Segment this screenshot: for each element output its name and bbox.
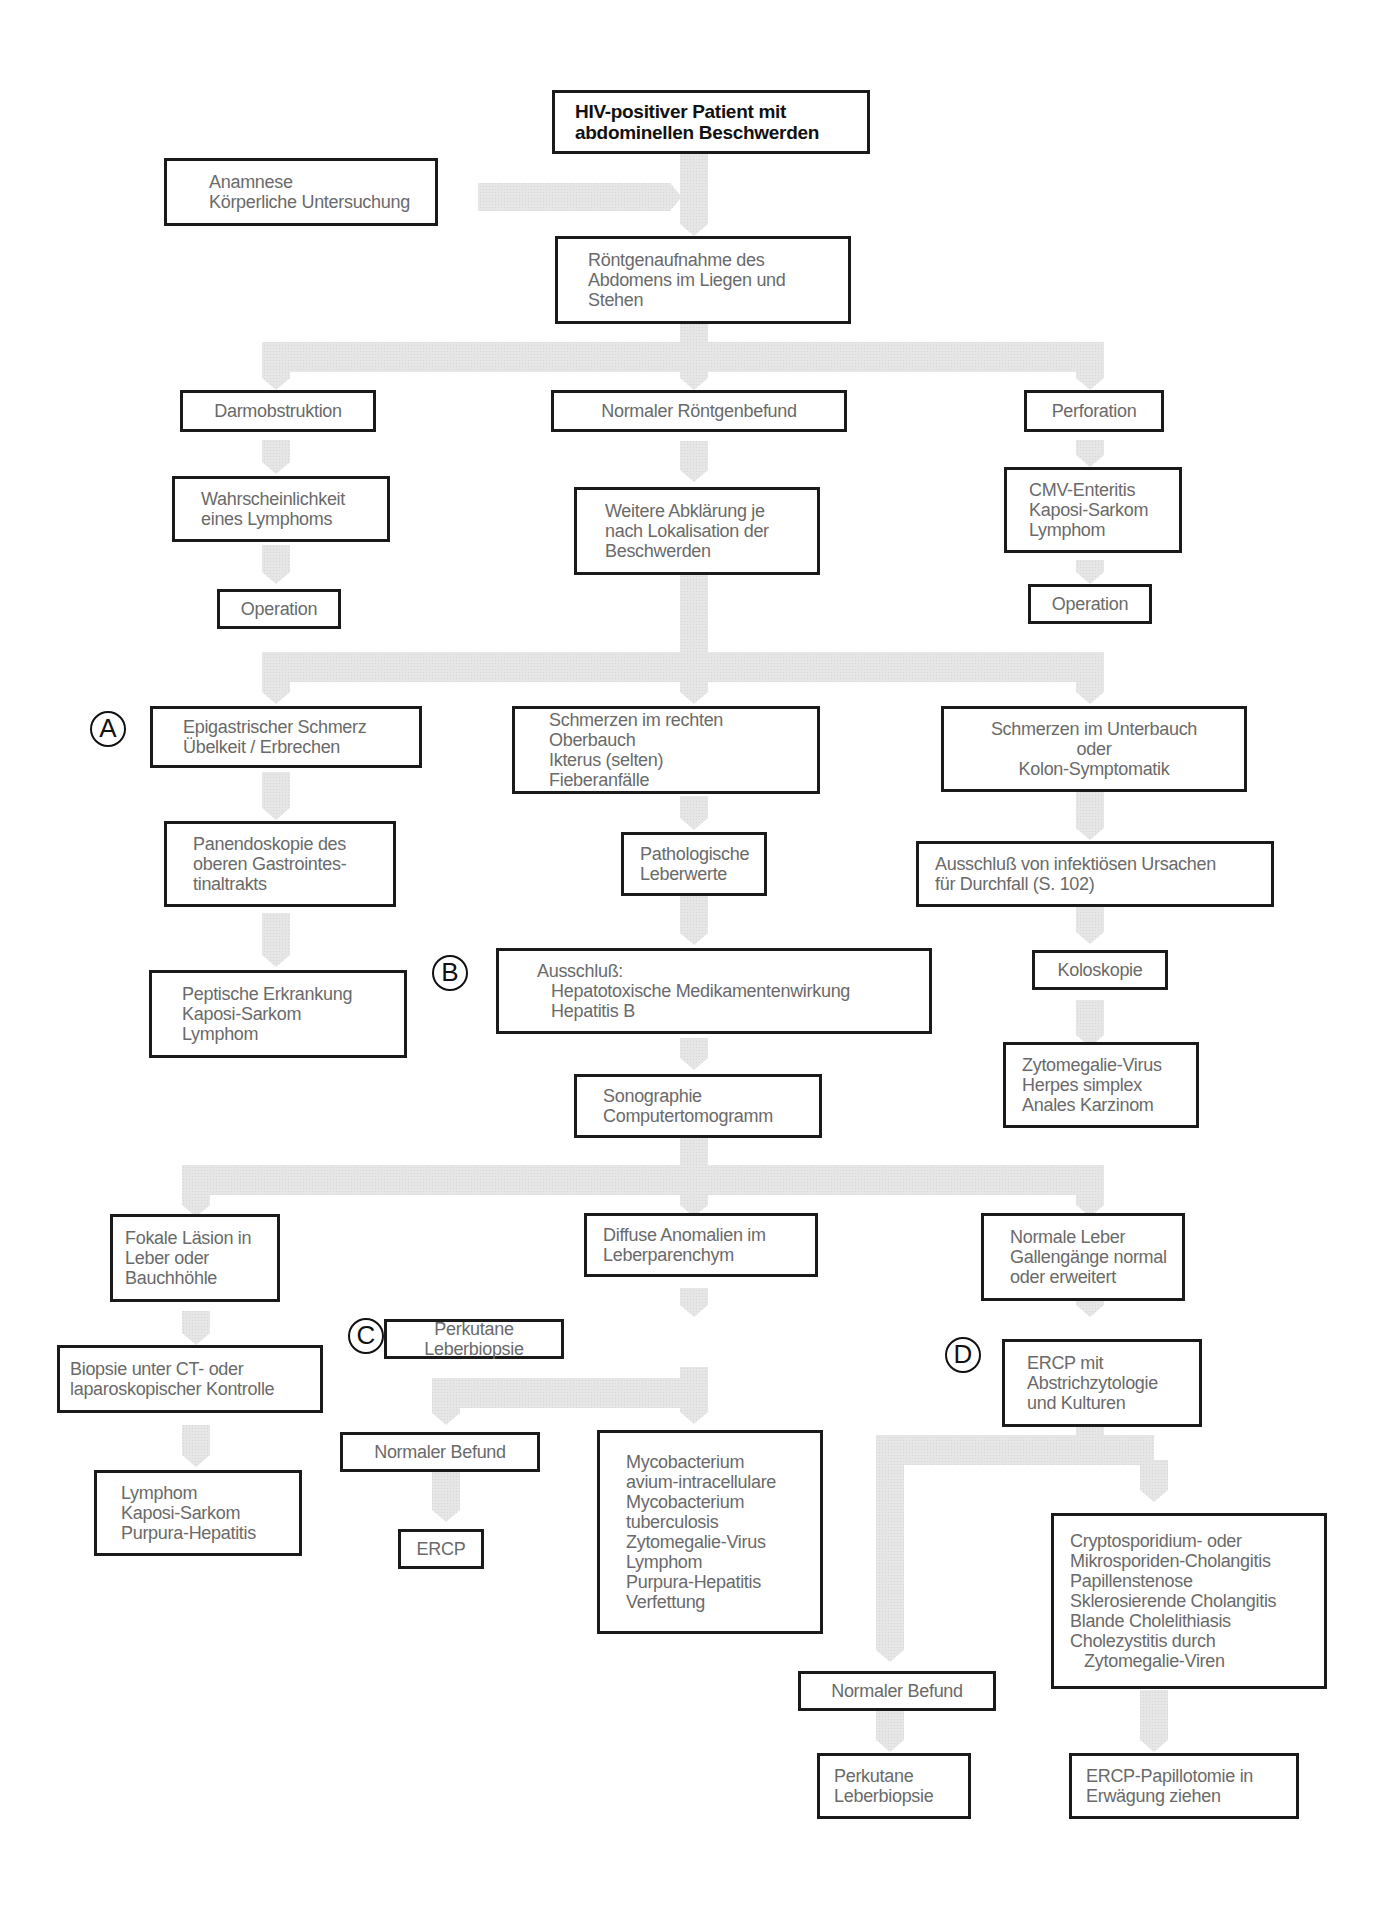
node-biopsie-ct: Biopsie unter CT- oder laparoskopischer … <box>57 1345 323 1413</box>
node-text: Leber oder <box>125 1248 265 1268</box>
title-line: abdominellen Beschwerden <box>575 122 855 143</box>
node-text: Anamnese <box>209 172 423 192</box>
node-diffuse-anomalien: Diffuse Anomalien im Leberparenchym <box>584 1213 818 1277</box>
node-normaler-roentgenbefund: Normaler Röntgenbefund <box>551 390 847 432</box>
node-text: Hepatotoxische Medikamentenwirkung <box>537 981 917 1001</box>
node-text: Zytomegalie-Virus <box>1022 1055 1184 1075</box>
node-text: oder erweitert <box>1010 1267 1170 1287</box>
node-text: Computertomogramm <box>603 1106 807 1126</box>
node-text: Ausschluß von infektiösen Ursachen <box>935 854 1259 874</box>
node-text: Sonographie <box>603 1086 807 1106</box>
node-text: Pathologische <box>640 844 752 864</box>
node-normaler-befund-d: Normaler Befund <box>798 1671 996 1711</box>
node-lymphom-fokal: Lymphom Kaposi-Sarkom Purpura-Hepatitis <box>94 1470 302 1556</box>
node-roentgen: Röntgenaufnahme des Abdomens im Liegen u… <box>555 236 851 324</box>
node-text: Erwägung ziehen <box>1086 1786 1284 1806</box>
node-text: oder <box>1077 739 1112 759</box>
node-text: Kaposi-Sarkom <box>121 1503 287 1523</box>
node-text: Kolon-Symptomatik <box>1019 759 1170 779</box>
node-text: Cholezystitis durch <box>1070 1631 1312 1651</box>
node-koloskopie: Koloskopie <box>1032 950 1168 990</box>
node-text: Perkutane <box>834 1766 956 1786</box>
node-text: Operation <box>241 599 317 619</box>
node-operation-right: Operation <box>1028 584 1152 624</box>
node-text: Koloskopie <box>1057 960 1142 980</box>
node-text: ERCP <box>417 1539 466 1559</box>
node-text: Panendoskopie des <box>193 834 381 854</box>
node-normale-leber: Normale Leber Gallengänge normal oder er… <box>981 1213 1185 1301</box>
node-text: Verfettung <box>626 1592 808 1612</box>
title-line: HIV-positiver Patient mit <box>575 101 855 122</box>
node-perforation: Perforation <box>1024 390 1164 432</box>
node-text: ERCP mit <box>1027 1353 1187 1373</box>
node-text: Leberbiopsie <box>834 1786 956 1806</box>
node-text: nach Lokalisation der <box>605 521 805 541</box>
node-text: Perforation <box>1052 401 1137 421</box>
node-text: Fieberanfälle <box>549 770 805 790</box>
node-text: Diffuse Anomalien im <box>603 1225 803 1245</box>
node-text: ERCP-Papillotomie in <box>1086 1766 1284 1786</box>
node-lymphom-wahrscheinlichkeit: Wahrscheinlichkeit eines Lymphoms <box>172 476 390 542</box>
node-text: Körperliche Untersuchung <box>209 192 423 212</box>
node-perkutane-biopsie-d: Perkutane Leberbiopsie <box>817 1753 971 1819</box>
node-operation-left: Operation <box>217 589 341 629</box>
node-text: CMV-Enteritis <box>1029 480 1167 500</box>
node-text: Lymphom <box>182 1024 392 1044</box>
node-text: Zytomegalie-Virus <box>626 1532 808 1552</box>
node-text: Perkutane Leberbiopsie <box>399 1319 549 1359</box>
node-text: Röntgenaufnahme des <box>588 250 836 270</box>
node-text: Abdomens im Liegen und <box>588 270 836 290</box>
node-text: Beschwerden <box>605 541 805 561</box>
node-text: Lymphom <box>1029 520 1167 540</box>
node-text: für Durchfall (S. 102) <box>935 874 1259 894</box>
marker-d: D <box>945 1337 981 1373</box>
node-text: Ausschluß: <box>537 961 917 981</box>
node-text: Anales Karzinom <box>1022 1095 1184 1115</box>
node-text: Papillenstenose <box>1070 1571 1312 1591</box>
node-text: Normaler Befund <box>374 1442 506 1462</box>
node-sonographie: Sonographie Computertomogramm <box>574 1074 822 1138</box>
node-panendoskopie: Panendoskopie des oberen Gastrointes- ti… <box>164 821 396 907</box>
marker-a: A <box>90 711 126 747</box>
node-text: avium-intracellulare <box>626 1472 808 1492</box>
node-ercp-abstrich: ERCP mit Abstrichzytologie und Kulturen <box>1002 1339 1202 1427</box>
node-text: Biopsie unter CT- oder <box>70 1359 308 1379</box>
node-text: Bauchhöhle <box>125 1268 265 1288</box>
node-pathologische-leberwerte: Pathologische Leberwerte <box>621 832 767 896</box>
marker-c: C <box>348 1318 384 1354</box>
arrow-roentgen-down <box>680 322 708 345</box>
node-text: Mycobacterium <box>626 1492 808 1512</box>
node-text: Operation <box>1052 594 1128 614</box>
node-text: Weitere Abklärung je <box>605 501 805 521</box>
node-epigastrisch: Epigastrischer Schmerz Übelkeit / Erbrec… <box>150 706 422 768</box>
node-text: Mikrosporiden-Cholangitis <box>1070 1551 1312 1571</box>
node-text: Kaposi-Sarkom <box>1029 500 1167 520</box>
node-text: Darmobstruktion <box>214 401 342 421</box>
node-unterbauch: Schmerzen im Unterbauch oder Kolon-Sympt… <box>941 706 1247 792</box>
node-text: Cryptosporidium- oder <box>1070 1531 1312 1551</box>
node-text: Fokale Läsion in <box>125 1228 265 1248</box>
node-mycobacterium: Mycobacterium avium-intracellulare Mycob… <box>597 1430 823 1634</box>
node-text: Leberwerte <box>640 864 752 884</box>
node-text: Gallengänge normal <box>1010 1247 1170 1267</box>
node-text: Herpes simplex <box>1022 1075 1184 1095</box>
node-rechter-oberbauch: Schmerzen im rechten Oberbauch Ikterus (… <box>512 706 820 794</box>
node-fokale-laesion: Fokale Läsion in Leber oder Bauchhöhle <box>110 1214 280 1302</box>
node-text: Peptische Erkrankung <box>182 984 392 1004</box>
node-text: Wahrscheinlichkeit <box>201 489 375 509</box>
node-text: Normale Leber <box>1010 1227 1170 1247</box>
node-text: Purpura-Hepatitis <box>121 1523 287 1543</box>
flowchart-canvas: HIV-positiver Patient mit abdominellen B… <box>0 0 1391 1925</box>
node-text: Stehen <box>588 290 836 310</box>
node-text: Ikterus (selten) <box>549 750 805 770</box>
node-weitere-abklaerung: Weitere Abklärung je nach Lokalisation d… <box>574 487 820 575</box>
node-cryptosporidium: Cryptosporidium- oder Mikrosporiden-Chol… <box>1051 1513 1327 1689</box>
node-text: Abstrichzytologie <box>1027 1373 1187 1393</box>
node-title: HIV-positiver Patient mit abdominellen B… <box>552 90 870 154</box>
node-text: und Kulturen <box>1027 1393 1187 1413</box>
node-text: Normaler Befund <box>831 1681 963 1701</box>
node-text: Mycobacterium <box>626 1452 808 1472</box>
node-text: Normaler Röntgenbefund <box>601 401 797 421</box>
node-anamnese: Anamnese Körperliche Untersuchung <box>164 158 438 226</box>
node-text: tinaltrakts <box>193 874 381 894</box>
